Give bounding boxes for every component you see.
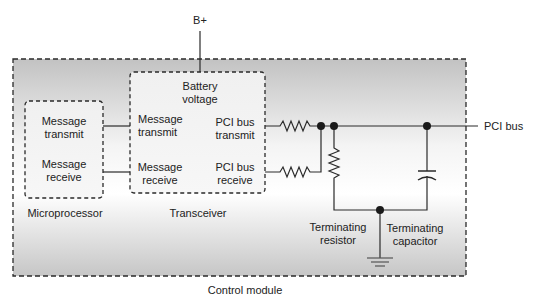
micro-transmit-line1: Message <box>31 115 97 128</box>
transceiver-msg-receive-line1: Message <box>134 161 186 174</box>
micro-transmit-label: Message transmit <box>31 115 97 141</box>
junction-dot <box>330 122 338 130</box>
terminating-capacitor-label: Terminating capacitor <box>382 222 448 248</box>
transceiver-msg-receive-line2: receive <box>134 174 186 187</box>
battery-voltage-line2: voltage <box>170 93 230 106</box>
transceiver-bus-receive-line2: receive <box>210 174 260 187</box>
battery-voltage-label: Battery voltage <box>170 80 230 106</box>
terminating-resistor-line1: Terminating <box>305 221 371 234</box>
transceiver-bus-receive-line1: PCI bus <box>210 161 260 174</box>
control-module-label: Control module <box>195 284 295 297</box>
transceiver-msg-transmit-line1: Message <box>138 113 183 126</box>
transceiver-bus-transmit-line1: PCI bus <box>210 116 260 129</box>
transceiver-label: Transceiver <box>165 207 231 220</box>
terminating-resistor-line2: resistor <box>305 234 371 247</box>
junction-dot <box>423 122 431 130</box>
terminating-resistor-label: Terminating resistor <box>305 221 371 247</box>
microprocessor-label: Microprocessor <box>20 207 110 220</box>
transceiver-bus-transmit-label: PCI bus transmit <box>210 116 260 142</box>
transceiver-msg-receive-label: Message receive <box>134 161 186 187</box>
circuit-diagram <box>0 0 533 300</box>
micro-receive-label: Message receive <box>31 158 97 184</box>
transceiver-msg-transmit-line2: transmit <box>138 126 183 139</box>
micro-receive-line1: Message <box>31 158 97 171</box>
micro-transmit-line2: transmit <box>31 128 97 141</box>
pci-bus-label: PCI bus <box>484 120 523 133</box>
transceiver-bus-transmit-line2: transmit <box>210 129 260 142</box>
micro-receive-line2: receive <box>31 171 97 184</box>
battery-voltage-line1: Battery <box>170 80 230 93</box>
transceiver-msg-transmit-label: Message transmit <box>138 113 183 139</box>
terminating-capacitor-line2: capacitor <box>382 235 448 248</box>
transceiver-bus-receive-label: PCI bus receive <box>210 161 260 187</box>
junction-dot <box>317 122 325 130</box>
supply-label: B+ <box>188 14 212 27</box>
terminating-capacitor-line1: Terminating <box>382 222 448 235</box>
junction-dot <box>376 206 384 214</box>
